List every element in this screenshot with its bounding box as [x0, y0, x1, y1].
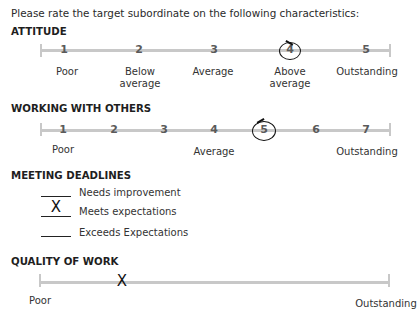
label-average: Average	[193, 146, 234, 158]
label-outstanding: Outstanding	[355, 298, 417, 310]
attitude-heading: ATTITUDE	[11, 26, 67, 37]
label-poor: Poor	[29, 295, 51, 307]
scale-end-cap	[388, 274, 390, 287]
working-with-others-heading: WORKING WITH OTHERS	[11, 103, 151, 114]
quality-of-work-heading: QUALITY OF WORK	[11, 256, 118, 267]
selected-circle-mark	[252, 121, 276, 141]
label-outstanding: Outstanding	[336, 66, 398, 78]
label-above-average: Above average	[270, 66, 311, 90]
checkbox-line[interactable]	[41, 236, 71, 237]
scale-end-cap	[389, 44, 391, 57]
tick-3[interactable]: 3	[154, 124, 174, 136]
tick-4[interactable]: 4	[204, 124, 224, 136]
label-poor: Poor	[56, 66, 78, 78]
scale-end-cap	[389, 123, 391, 136]
selected-circle-mark	[279, 42, 301, 60]
x-mark: X	[117, 274, 127, 289]
scale-bar	[40, 281, 390, 284]
option-label: Meets expectations	[79, 206, 177, 217]
label-average: Average	[192, 66, 233, 78]
label-below-average: Below average	[120, 66, 161, 90]
tick-6[interactable]: 6	[306, 124, 326, 136]
instructions-text: Please rate the target subordinate on th…	[11, 7, 359, 19]
tick-1[interactable]: 1	[53, 124, 73, 136]
checkbox-line[interactable]	[41, 216, 71, 217]
label-poor: Poor	[52, 144, 74, 156]
tick-5[interactable]: 5	[356, 44, 376, 56]
option-label: Needs improvement	[79, 187, 181, 198]
meeting-deadlines-heading: MEETING DEADLINES	[11, 170, 131, 181]
label-outstanding: Outstanding	[336, 146, 398, 158]
tick-3[interactable]: 3	[204, 44, 224, 56]
tick-7[interactable]: 7	[356, 124, 376, 136]
tick-2[interactable]: 2	[129, 44, 149, 56]
checkbox-line[interactable]	[41, 196, 71, 197]
x-mark: X	[51, 200, 61, 215]
tick-1[interactable]: 1	[54, 44, 74, 56]
option-label: Exceeds Expectations	[79, 227, 188, 238]
tick-2[interactable]: 2	[104, 124, 124, 136]
